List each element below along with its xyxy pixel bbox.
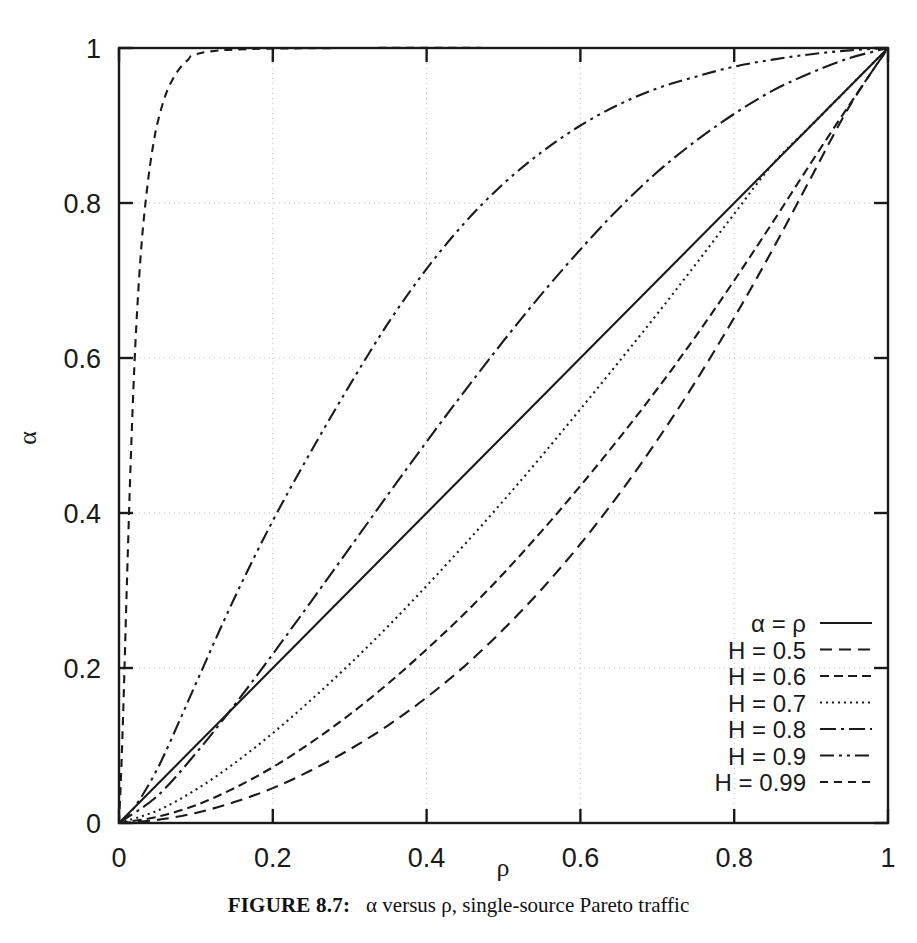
x-tick-label: 1 bbox=[880, 843, 895, 873]
figure-caption-alpha: α bbox=[366, 893, 377, 917]
figure-caption: FIGURE 8.7:α versus ρ, single-source Par… bbox=[0, 893, 917, 918]
y-tick-label: 0.6 bbox=[63, 344, 101, 374]
y-tick-label: 1 bbox=[86, 34, 101, 64]
y-axis-tick-labels: 00.20.40.60.81 bbox=[63, 34, 101, 839]
x-tick-label: 0.4 bbox=[408, 843, 446, 873]
legend-label-3[interactable]: H = 0.7 bbox=[728, 690, 806, 717]
y-axis-label: α bbox=[13, 431, 42, 445]
legend-label-5[interactable]: H = 0.9 bbox=[728, 743, 806, 770]
y-tick-label: 0.8 bbox=[63, 189, 101, 219]
y-tick-label: 0 bbox=[86, 809, 101, 839]
figure-caption-rho: ρ bbox=[441, 893, 451, 917]
y-tick-label: 0.2 bbox=[63, 654, 101, 684]
y-tick-label: 0.4 bbox=[63, 499, 101, 529]
legend-label-1[interactable]: H = 0.5 bbox=[728, 637, 806, 664]
figure-caption-mid: versus bbox=[377, 893, 441, 917]
legend-label-0[interactable]: α = ρ bbox=[751, 610, 806, 637]
chart-canvas: 00.20.40.60.81 00.20.40.60.81 ρ α α = ρH… bbox=[0, 0, 917, 893]
x-tick-label: 0.8 bbox=[715, 843, 753, 873]
figure-caption-label: FIGURE 8.7: bbox=[228, 893, 350, 917]
x-tick-label: 0.2 bbox=[254, 843, 292, 873]
x-tick-label: 0.6 bbox=[562, 843, 600, 873]
figure-caption-tail: , single-source Pareto traffic bbox=[452, 893, 690, 917]
figure-container: 00.20.40.60.81 00.20.40.60.81 ρ α α = ρH… bbox=[0, 0, 917, 943]
legend-label-6[interactable]: H = 0.99 bbox=[715, 769, 806, 796]
x-axis-label: ρ bbox=[497, 853, 510, 882]
legend-label-4[interactable]: H = 0.8 bbox=[728, 716, 806, 743]
legend-label-2[interactable]: H = 0.6 bbox=[728, 663, 806, 690]
chart-legend[interactable]: α = ρH = 0.5H = 0.6H = 0.7H = 0.8H = 0.9… bbox=[715, 610, 872, 796]
x-tick-label: 0 bbox=[111, 843, 126, 873]
